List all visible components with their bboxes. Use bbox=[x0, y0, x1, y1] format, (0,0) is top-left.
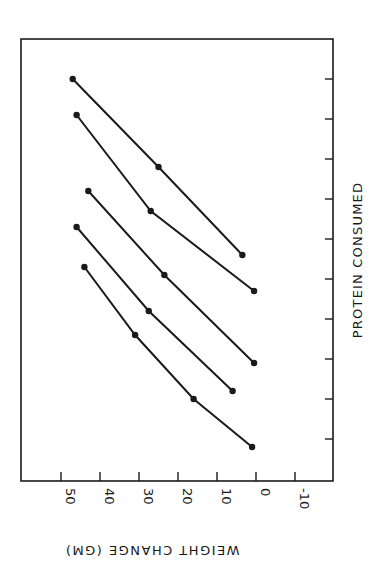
data-point bbox=[81, 264, 87, 270]
data-point bbox=[85, 188, 91, 194]
protein-axis-ticks bbox=[325, 79, 333, 439]
weight-tick-label: 20 bbox=[180, 488, 195, 505]
data-point bbox=[146, 308, 152, 314]
series-line-5 bbox=[81, 264, 255, 450]
weight-tick-label: 10 bbox=[219, 488, 234, 505]
weight-axis-title: WEIGHT CHANGE (GM) bbox=[64, 543, 239, 558]
chart: 50403020100-10 WEIGHT CHANGE (GM) PROTEI… bbox=[0, 0, 374, 577]
data-point bbox=[155, 164, 161, 170]
weight-axis-ticks: 50403020100-10 bbox=[61, 472, 312, 509]
plot-frame bbox=[21, 39, 333, 481]
weight-tick-label: -10 bbox=[297, 488, 312, 509]
data-point bbox=[70, 76, 76, 82]
data-point bbox=[239, 252, 245, 258]
weight-tick-label: 30 bbox=[141, 488, 156, 505]
data-point bbox=[132, 332, 138, 338]
protein-axis-title: PROTEIN CONSUMED bbox=[350, 182, 365, 338]
data-point bbox=[148, 208, 154, 214]
data-point bbox=[161, 272, 167, 278]
series-path bbox=[77, 227, 233, 391]
data-point bbox=[251, 360, 257, 366]
data-point bbox=[229, 388, 235, 394]
weight-tick-label: 0 bbox=[258, 488, 273, 496]
series-line-1 bbox=[70, 76, 246, 258]
data-point bbox=[73, 112, 79, 118]
data-point bbox=[73, 224, 79, 230]
data-point bbox=[251, 288, 257, 294]
data-point bbox=[190, 396, 196, 402]
data-series bbox=[70, 76, 258, 450]
series-line-2 bbox=[73, 112, 257, 294]
series-path bbox=[77, 115, 254, 291]
weight-tick-label: 50 bbox=[63, 488, 78, 505]
series-path bbox=[84, 267, 252, 447]
series-path bbox=[88, 191, 254, 363]
data-point bbox=[249, 444, 255, 450]
weight-tick-label: 40 bbox=[102, 488, 117, 505]
series-line-3 bbox=[85, 188, 257, 366]
series-line-4 bbox=[73, 224, 235, 394]
